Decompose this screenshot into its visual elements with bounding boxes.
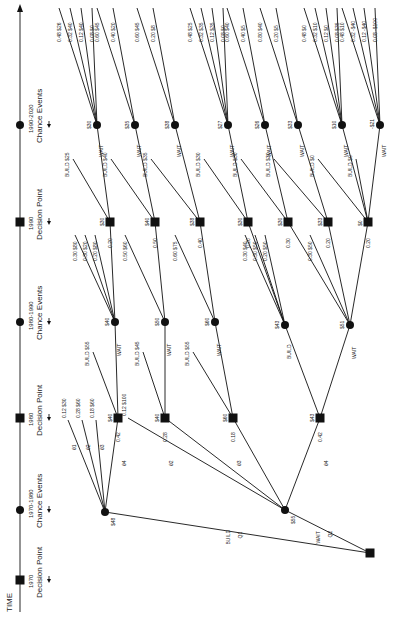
chance-node-1970 — [281, 506, 289, 514]
root-decision-node — [366, 549, 375, 558]
action-branch — [115, 322, 118, 418]
terminal-value: 0.32 $10 — [312, 22, 318, 42]
build-label: BUILD $30 — [232, 152, 238, 177]
node-value: $33 — [287, 120, 293, 129]
terminal-value: 0.40 $5 — [240, 25, 246, 42]
node-value: $40 — [107, 413, 113, 422]
probability-label: 0.18 — [230, 432, 236, 442]
stage-arrow-icon — [47, 124, 51, 128]
chance-node-1990 — [294, 121, 302, 129]
chance-branch — [200, 222, 215, 322]
timeline-year: 1970 — [28, 574, 34, 588]
node-value: $48 — [110, 517, 116, 526]
outcome-label: 0.20 — [245, 238, 251, 248]
build-label: BUILD $55 — [184, 341, 190, 366]
terminal-value: 0.48 $26 — [56, 22, 62, 42]
timeline-year: 1980-1990 — [28, 301, 34, 330]
probability-label: 0.28 — [162, 432, 168, 442]
chance-node-1990 — [261, 121, 269, 129]
terminal-branch — [96, 420, 105, 512]
action-label: WAIT — [116, 344, 122, 356]
node-value: $30 — [86, 120, 92, 129]
action-label: BUILD — [225, 529, 231, 544]
terminal-value: 0.18 $60 — [89, 398, 95, 418]
chance-branch — [265, 235, 285, 325]
node-value: $30 — [237, 217, 243, 226]
terminal-value: 0.08 -$100 — [372, 18, 378, 42]
build-label: BUILD $30 — [195, 152, 201, 177]
build-label: BUILD $45 — [134, 341, 140, 366]
node-value: $38 — [189, 217, 195, 226]
build-label: BUILD $30 — [265, 152, 271, 177]
wait-branch — [368, 125, 380, 222]
build-label: BUILD $0 — [309, 155, 315, 177]
node-value: -$21 — [369, 119, 375, 129]
terminal-value: 0.20 $8 — [150, 25, 156, 42]
timeline-chance-marker — [16, 121, 24, 129]
stage-arrow-icon — [47, 509, 51, 513]
chance-branch — [328, 222, 350, 325]
decision-node-1980 — [161, 414, 170, 423]
action-branch — [285, 325, 320, 418]
node-value: $40 — [144, 217, 150, 226]
stage-arrow-icon — [47, 221, 51, 225]
chance-node-1980 — [161, 318, 169, 326]
node-value: $26 — [254, 120, 260, 129]
timeline-year: 1990-2020 — [28, 104, 34, 133]
node-value: $27 — [217, 120, 223, 129]
terminal-value: 0.32 $35 — [198, 22, 204, 42]
action-label: WAIT — [176, 145, 182, 157]
outcome-label: 0.50 $60 — [122, 241, 128, 261]
node-value: $60 — [222, 413, 228, 422]
terminal-value: 0.12 $35 — [209, 22, 215, 42]
chance-branch — [155, 222, 165, 322]
chance-node-1990 — [131, 121, 139, 129]
stage-arrow-icon — [47, 417, 51, 421]
terminal-branch — [68, 420, 105, 512]
build-label: BUILD $0 — [347, 155, 353, 177]
action-label: WAIT — [343, 145, 349, 157]
timeline-stage-label: Decision Point — [35, 188, 44, 240]
timeline-stage-label: Chance Events — [35, 89, 44, 143]
chance-branch — [248, 222, 285, 325]
node-value: $35 — [124, 120, 130, 129]
terminal-branch — [82, 420, 105, 512]
outcome-label: 0.20 — [107, 238, 113, 248]
theta-label: θ3 — [99, 444, 105, 450]
decision-tree-diagram: TIME1970Decision Point1970-1980Chance Ev… — [0, 0, 415, 620]
node-value: $43 — [309, 413, 315, 422]
terminal-value: 0.12 $40 — [78, 22, 84, 42]
timeline-decision-marker — [16, 218, 25, 227]
node-value: $50 — [154, 317, 160, 326]
terminal-value: 0.20 $5 — [273, 25, 279, 42]
timeline-stage-label: Decision Point — [35, 546, 44, 598]
chance-branch — [125, 235, 165, 322]
terminal-value: 0.28 $60 — [75, 398, 81, 418]
build-branch — [143, 352, 165, 418]
terminal-branch — [128, 418, 285, 510]
chance-node-1990 — [93, 121, 101, 129]
theta-label: θ1 — [71, 444, 77, 450]
outcome-label: 0.60 $75 — [172, 241, 178, 261]
node-value: $38 — [164, 120, 170, 129]
outcome-label: 0.30 $50 — [252, 241, 258, 261]
probability-label: Q1 — [237, 532, 243, 539]
timeline-title: TIME — [5, 593, 14, 612]
action-label: WAIT — [381, 145, 387, 157]
node-value: $43 — [274, 320, 280, 329]
timeline-stage-label: Chance Events — [35, 474, 44, 528]
node-value: $33 — [317, 217, 323, 226]
terminal-value: 0.60 $45 — [94, 22, 100, 42]
outcome-label: 0.30 — [285, 238, 291, 248]
theta-label: θ2 — [85, 444, 91, 450]
chance-branch — [165, 418, 285, 510]
outcome-label: 0.30 $20 — [82, 241, 88, 261]
outcome-label: 0.20 — [365, 238, 371, 248]
chance-node-1970 — [101, 508, 109, 516]
theta-label: θ4 — [121, 460, 127, 466]
outcome-label: 0.20 $80 — [92, 241, 98, 261]
chance-node-1980 — [346, 321, 354, 329]
terminal-value: 0.48 $25 — [187, 22, 193, 42]
theta-label: θ2 — [168, 460, 174, 466]
action-branch — [320, 325, 350, 418]
